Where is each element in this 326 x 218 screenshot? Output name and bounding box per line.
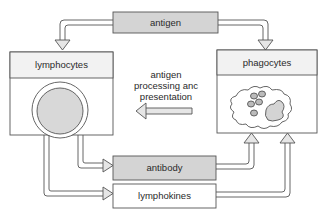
phagocytes-label: phagocytes <box>217 57 317 68</box>
center-note-line1: antigen <box>128 69 204 80</box>
immune-diagram: antigen lymphocytes phagocytes antibody … <box>0 0 326 218</box>
arrow-lymphocytes-to-antibody <box>78 135 113 172</box>
antigen-label: antigen <box>113 17 218 28</box>
lymphokines-label: lymphokines <box>113 190 216 201</box>
center-note: antigen processing anc presentation <box>128 69 204 102</box>
arrow-antibody-to-phagocytes <box>216 133 259 169</box>
diagram-graphics <box>0 0 326 218</box>
lymphocyte-cell-nucleus <box>37 88 83 134</box>
arrow-processing-presentation <box>136 103 192 119</box>
center-note-line2: processing anc <box>128 80 204 91</box>
arrow-antigen-to-lymphocytes <box>55 20 113 50</box>
antibody-label: antibody <box>113 162 216 173</box>
lymphocytes-label: lymphocytes <box>10 59 113 70</box>
arrow-antigen-to-phagocytes <box>218 20 273 50</box>
center-note-line3: presentation <box>128 91 204 102</box>
